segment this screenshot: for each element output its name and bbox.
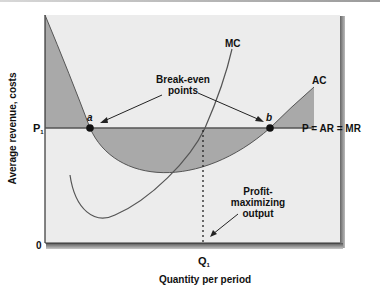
- arrowhead-b: [255, 116, 264, 122]
- arrow-to-a: [104, 95, 162, 121]
- break-even-line1: Break-even: [148, 74, 218, 85]
- point-a-label: a: [87, 112, 93, 123]
- cost-curves-diagram: [0, 0, 380, 291]
- profit-region: [90, 128, 270, 173]
- profit-line3: output: [228, 208, 288, 219]
- break-even-annotation: Break-even points: [148, 74, 218, 96]
- x-axis-label: Quantity per period: [140, 274, 270, 285]
- arrowhead-a: [100, 117, 108, 123]
- point-b: [266, 124, 274, 132]
- ac-label: AC: [312, 75, 326, 86]
- mc-label: MC: [225, 38, 241, 49]
- point-b-label: b: [266, 112, 272, 123]
- demand-label: P = AR = MR: [302, 123, 361, 134]
- q1-label: Q1: [198, 256, 210, 271]
- profit-line2: maximizing: [228, 197, 288, 208]
- profit-line1: Profit-: [228, 186, 288, 197]
- origin-label: 0: [36, 240, 42, 251]
- y-axis-label: Average revenue, costs: [7, 69, 18, 189]
- break-even-line2: points: [148, 85, 218, 96]
- p1-label: P1: [33, 123, 44, 138]
- q1-main: Q: [198, 255, 207, 267]
- p1-sub: 1: [40, 129, 43, 135]
- arrow-to-b: [198, 93, 260, 120]
- q1-sub: 1: [207, 262, 210, 268]
- profit-max-annotation: Profit- maximizing output: [228, 186, 288, 219]
- point-a: [86, 124, 94, 132]
